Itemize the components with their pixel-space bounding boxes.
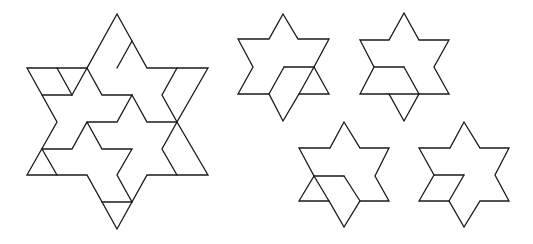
dissection-line bbox=[132, 95, 177, 122]
small-hexagram-1 bbox=[238, 14, 329, 121]
dissection-line bbox=[42, 68, 132, 149]
dissection-line bbox=[42, 149, 57, 175]
dissection-line bbox=[117, 41, 132, 68]
small-hexagram-2 bbox=[360, 13, 449, 121]
dissection-line bbox=[57, 68, 87, 95]
star-outline bbox=[299, 122, 389, 227]
hexagram-dissection-diagram bbox=[0, 0, 533, 244]
dissection-line bbox=[299, 67, 314, 94]
dissection-line bbox=[449, 175, 464, 201]
dissection-line bbox=[314, 176, 329, 201]
dissection-line bbox=[404, 67, 419, 94]
small-hexagram-4 bbox=[419, 122, 509, 227]
dissection-line bbox=[87, 122, 132, 202]
dissection-line bbox=[269, 67, 284, 94]
diagram-svg bbox=[0, 0, 533, 244]
large-dissected-hexagram bbox=[27, 14, 208, 229]
small-hexagram-3 bbox=[299, 122, 389, 227]
dissection-line bbox=[344, 176, 360, 201]
